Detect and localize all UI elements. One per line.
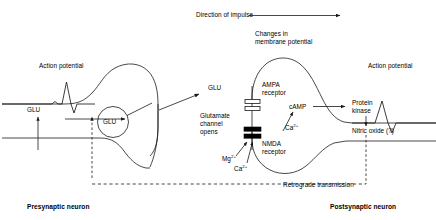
- nmda-receptor-label-line2: receptor: [262, 148, 286, 156]
- membrane-potential-label-line1: Changes in: [255, 30, 288, 38]
- calcium-influx-arrow: [247, 142, 253, 163]
- magnesium-ion-label: Mg2+: [222, 155, 236, 163]
- ampa-receptor-label-line2: receptor: [262, 89, 286, 97]
- retrograde-transmission-label: Retrograde transmission: [283, 181, 354, 189]
- intracellular-calcium-charge: 2+: [293, 123, 298, 128]
- glutamate-channel-label-line1: Glutamate: [200, 112, 230, 120]
- postsynaptic-action-potential-label: Action potential: [368, 62, 413, 70]
- glutamate-uptake-label: GLU: [27, 106, 40, 114]
- intracellular-calcium-label: Ca2+: [285, 124, 298, 132]
- glutamate-release-label: GLU: [208, 84, 221, 92]
- protein-kinase-label-line2: kinase: [352, 107, 371, 115]
- presynaptic-action-potential-trace: [2, 82, 95, 113]
- nitric-oxide-label: Nitric oxide (?): [352, 127, 394, 135]
- direction-of-impulse-label: Direction of impulse: [196, 11, 253, 19]
- magnesium-influx-arrow: [236, 142, 247, 156]
- magnesium-ion-symbol: Mg: [222, 155, 231, 162]
- postsynaptic-neuron-region-label: Postsynaptic neuron: [330, 203, 396, 211]
- presynaptic-lower-membrane: [2, 138, 150, 168]
- glutamate-channel-label-line2: channel: [200, 120, 223, 128]
- nmda-receptor-glyph: [244, 127, 261, 138]
- ampa-receptor-label-line1: AMPA: [262, 81, 280, 89]
- presynaptic-action-potential-label: Action potential: [39, 62, 84, 70]
- vesicle-label: GLU: [103, 118, 116, 126]
- calcium-influx-label: Ca2+: [234, 165, 247, 173]
- camp-label: cAMP: [289, 103, 306, 111]
- presynaptic-neuron-region-label: Presynaptic neuron: [27, 203, 89, 211]
- glutamate-channel-label-line3: opens: [200, 128, 218, 136]
- synaptic-transmission-figure: Direction of impulse Action potential GL…: [0, 0, 436, 220]
- protein-kinase-label-line1: Protein: [352, 99, 373, 107]
- vesicle-release-connector: [127, 103, 152, 116]
- membrane-potential-label-line2: membrane potential: [255, 38, 312, 46]
- calcium-influx-charge: 2+: [242, 164, 247, 169]
- nmda-receptor-label-line1: NMDA: [262, 140, 281, 148]
- presynaptic-terminal-edge: [150, 104, 158, 167]
- presynaptic-upper-membrane: [2, 64, 158, 156]
- ampa-receptor-glyph: [245, 100, 260, 111]
- magnesium-ion-charge: 2+: [231, 154, 236, 159]
- glutamate-release-arrow: [159, 94, 199, 110]
